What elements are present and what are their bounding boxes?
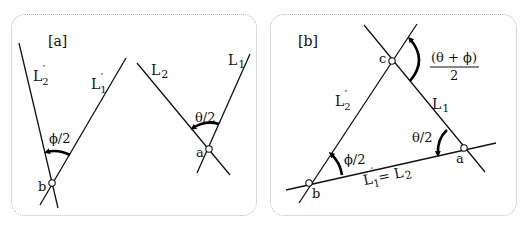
panel-a-tag: [a] [48,33,67,49]
label-point-b-a: b [38,179,46,194]
label-L2-prime-a: L2′ [33,63,49,87]
label-phi-half-b: ϕ/2 [344,152,366,167]
diagram-canvas: [a] L2′ L1′ L2 L1 ϕ/2 θ/2 b a [b] [0,0,526,230]
panel-b: [b] L2′ L1 L1′= L2 ϕ/2 θ/2 (θ + ϕ) 2 c a… [286,24,496,203]
angle-sum-arc-b [410,39,419,81]
label-theta-half-a: θ/2 [195,110,215,125]
point-c-b [389,58,395,64]
label-phi-half-a: ϕ/2 [49,131,71,146]
point-a-a [206,146,212,152]
label-point-b-b: b [312,186,320,201]
label-angle-sum-numerator-b: (θ + ϕ) [431,50,477,65]
panel-b-tag: [b] [298,33,318,49]
point-b-a [49,180,55,186]
label-L1-a: L1 [228,52,245,71]
angle-phi-arc-b [331,154,342,175]
label-angle-sum-denominator-b: 2 [450,68,458,83]
label-point-a-a: a [196,145,204,160]
label-point-c-b: c [379,51,386,66]
angle-phi-arc-a [47,151,70,155]
label-L2-a: L2 [151,62,168,81]
label-L1-b: L1 [432,96,449,115]
line-L2-a [137,63,230,175]
label-theta-half-b: θ/2 [412,130,432,145]
label-point-a-b: a [456,151,464,166]
label-L2-prime-b: L2′ [335,88,351,112]
panel-a: [a] L2′ L1′ L2 L1 ϕ/2 θ/2 b a [19,33,250,208]
label-L1-prime-a: L1′ [91,71,107,95]
angle-theta-arc-b [438,130,447,154]
